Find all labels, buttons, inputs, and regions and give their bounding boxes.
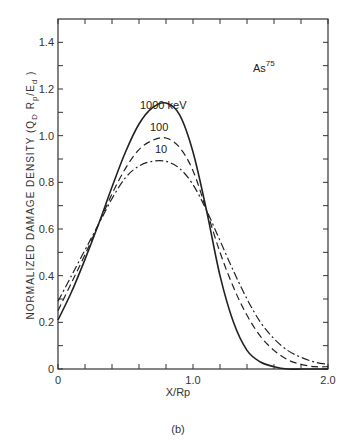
ylabel-sub: D bbox=[30, 113, 39, 120]
curve-100-kev bbox=[58, 138, 328, 367]
series-label-10kev: 10 bbox=[155, 143, 167, 155]
y-tick-label: 0.8 bbox=[39, 176, 54, 188]
y-tick-label: 0.2 bbox=[39, 316, 54, 328]
plot-frame bbox=[58, 19, 328, 369]
element-symbol: As bbox=[253, 62, 266, 74]
curves bbox=[58, 103, 328, 369]
ylabel-main: NORMALIZED DAMAGE DENSITY (Q bbox=[25, 120, 36, 320]
y-tick-label: 0 bbox=[48, 363, 54, 375]
curve-10-kev bbox=[58, 161, 328, 365]
y-tick-label: 0.6 bbox=[39, 223, 54, 235]
x-axis-label: X/Rp bbox=[166, 386, 190, 398]
mass-number: 75 bbox=[266, 59, 275, 68]
curve-1000-kev bbox=[58, 103, 328, 369]
ylabel-tail: /E bbox=[25, 84, 36, 95]
axis-ticks bbox=[58, 19, 328, 369]
x-tick-label: 2.0 bbox=[320, 374, 335, 386]
y-axis-label: NORMALIZED DAMAGE DENSITY (QD Rp/Ed ) bbox=[25, 71, 39, 320]
y-tick-label: 1.2 bbox=[39, 83, 54, 95]
damage-density-chart: 01.02.000.20.40.60.81.01.21.4 1000 keV 1… bbox=[0, 0, 353, 444]
ylabel-mid: R bbox=[25, 101, 36, 113]
tick-labels: 01.02.000.20.40.60.81.01.21.4 bbox=[39, 36, 336, 386]
y-tick-label: 1.4 bbox=[39, 36, 54, 48]
series-label-100kev: 100 bbox=[150, 121, 168, 133]
y-tick-label: 0.4 bbox=[39, 270, 54, 282]
ylabel-end: ) bbox=[25, 71, 36, 79]
series-label-1000kev: 1000 keV bbox=[140, 99, 187, 111]
x-tick-label: 1.0 bbox=[185, 374, 200, 386]
x-tick-label: 0 bbox=[55, 374, 61, 386]
y-tick-label: 1.0 bbox=[39, 130, 54, 142]
element-annotation: As75 bbox=[253, 59, 275, 74]
figure-caption: (b) bbox=[171, 423, 184, 435]
